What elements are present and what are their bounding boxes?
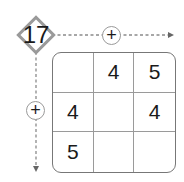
target-number: 17 <box>16 19 56 51</box>
grid-cell[interactable]: 4 <box>134 93 175 133</box>
grid-cell[interactable] <box>134 132 175 172</box>
grid-cell[interactable]: 5 <box>53 132 94 172</box>
grid-cell[interactable] <box>53 53 94 93</box>
grid-cell[interactable] <box>94 93 135 133</box>
grid-cell[interactable] <box>94 132 135 172</box>
grid-cell[interactable]: 5 <box>134 53 175 93</box>
grid-cell[interactable]: 4 <box>94 53 135 93</box>
grid-cell[interactable]: 4 <box>53 93 94 133</box>
column-plus-operator-icon: + <box>26 101 45 120</box>
row-plus-operator-icon: + <box>102 26 121 45</box>
puzzle-grid: 4 5 4 4 5 <box>52 52 176 173</box>
